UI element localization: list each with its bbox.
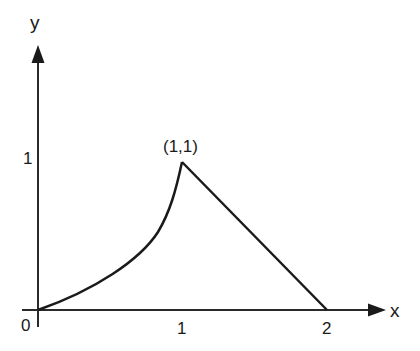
y-tick-1-label: 1: [23, 149, 32, 168]
origin-label: 0: [21, 316, 30, 335]
x-axis-arrow-icon: [368, 304, 386, 317]
y-axis-arrow-icon: [32, 45, 45, 63]
x-tick-1-label: 1: [177, 319, 186, 338]
x-tick-2-label: 2: [322, 319, 331, 338]
descending-line: [182, 162, 327, 310]
convex-curve: [38, 162, 182, 310]
peak-point-label: (1,1): [163, 137, 198, 156]
x-axis-label: x: [390, 300, 400, 321]
function-graph: y x 0 1 2 1 (1,1): [0, 0, 420, 351]
y-axis-label: y: [30, 12, 40, 33]
